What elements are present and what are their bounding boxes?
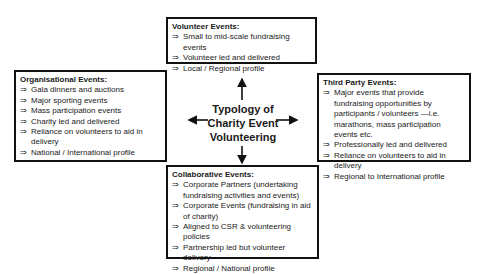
box-title: Collaborative Events: — [172, 170, 313, 180]
organisational-events-box: Organisational Events: ⇒Gala dinners and… — [14, 70, 167, 162]
list-item: ⇒Corporate Partners (undertaking fundrai… — [172, 180, 313, 201]
arrow-bullet-icon: ⇒ — [172, 64, 179, 74]
list-item: ⇒Major events that provide fundraising o… — [323, 88, 465, 140]
list-item: ⇒Charity led and delivered — [20, 117, 161, 127]
diagram-center-title: Typology of Charity Event Volunteering — [190, 102, 296, 144]
arrow-bullet-icon: ⇒ — [172, 180, 179, 190]
list-item: ⇒Corporate Events (fundraising in aid of… — [172, 201, 313, 222]
list-item: ⇒Local / Regional profile — [172, 64, 311, 74]
box-title: Volunteer Events: — [172, 22, 311, 32]
list-item: ⇒Regional / National profile — [172, 264, 313, 274]
arrow-bullet-icon: ⇒ — [323, 140, 330, 150]
list-item: ⇒Reliance on volunteers to aid in delive… — [323, 151, 465, 172]
box-title: Organisational Events: — [20, 75, 161, 85]
arrow-bullet-icon: ⇒ — [20, 127, 27, 137]
list-item: ⇒Partnership led but volunteer delivery — [172, 243, 313, 264]
box-title: Third Party Events: — [323, 78, 465, 88]
arrow-bullet-icon: ⇒ — [172, 53, 179, 63]
center-title-line-2: Charity Event — [190, 116, 296, 130]
collaborative-events-box: Collaborative Events: ⇒Corporate Partner… — [166, 165, 319, 259]
arrow-bullet-icon: ⇒ — [323, 88, 330, 98]
arrow-bullet-icon: ⇒ — [20, 96, 27, 106]
list-item: ⇒Volunteer led and delivered — [172, 53, 311, 63]
arrow-bullet-icon: ⇒ — [172, 201, 179, 211]
arrow-bullet-icon: ⇒ — [20, 85, 27, 95]
arrow-bullet-icon: ⇒ — [20, 117, 27, 127]
list-item: ⇒Small to mid-scale fundraising events — [172, 32, 311, 53]
list-item: ⇒Aligned to CSR & volunteering policies — [172, 222, 313, 243]
list-item: ⇒Professionally led and delivered — [323, 140, 465, 150]
arrow-bullet-icon: ⇒ — [20, 148, 27, 158]
center-title-line-1: Typology of — [190, 102, 296, 116]
list-item: ⇒Mass participation events — [20, 106, 161, 116]
arrow-bullet-icon: ⇒ — [20, 106, 27, 116]
arrow-bullet-icon: ⇒ — [172, 222, 179, 232]
volunteer-events-box: Volunteer Events: ⇒Small to mid-scale fu… — [166, 17, 317, 64]
arrow-bullet-icon: ⇒ — [172, 32, 179, 42]
list-item: ⇒National / International profile — [20, 148, 161, 158]
list-item: ⇒Regional to International profile — [323, 172, 465, 182]
arrow-bullet-icon: ⇒ — [323, 172, 330, 182]
arrow-bullet-icon: ⇒ — [323, 151, 330, 161]
list-item: ⇒Gala dinners and auctions — [20, 85, 161, 95]
center-title-line-3: Volunteering — [190, 130, 296, 144]
arrow-bullet-icon: ⇒ — [172, 264, 179, 274]
arrow-bullet-icon: ⇒ — [172, 243, 179, 253]
list-item: ⇒Major sporting events — [20, 96, 161, 106]
list-item: ⇒Reliance on volunteers to aid in delive… — [20, 127, 161, 148]
third-party-events-box: Third Party Events: ⇒Major events that p… — [317, 73, 471, 162]
